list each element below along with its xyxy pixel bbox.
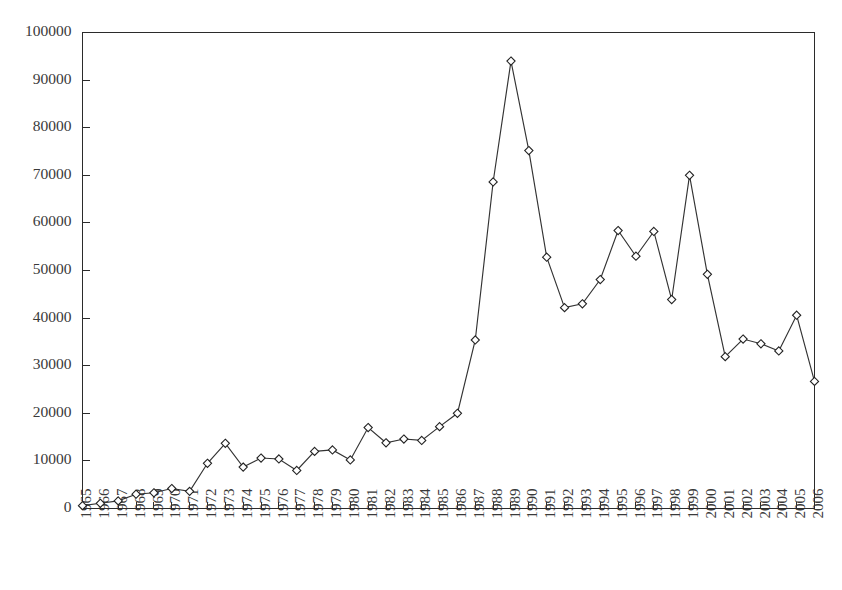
x-tick-label: 1990 xyxy=(524,489,540,519)
x-tick-label: 2003 xyxy=(757,489,773,519)
line-chart-figure: 0100002000030000400005000060000700008000… xyxy=(0,0,842,590)
x-tick-label: 1983 xyxy=(400,489,416,519)
x-tick-label: 2000 xyxy=(703,489,719,519)
x-tick-label: 1974 xyxy=(239,488,255,519)
x-tick-label: 1997 xyxy=(649,488,665,519)
x-tick-label: 2006 xyxy=(810,488,826,519)
x-tick-label: 1982 xyxy=(382,489,398,519)
x-tick-label: 1987 xyxy=(471,488,487,519)
y-tick-label: 20000 xyxy=(33,403,72,420)
y-tick-label: 50000 xyxy=(33,260,72,277)
chart-canvas: 0100002000030000400005000060000700008000… xyxy=(0,0,842,590)
x-tick-label: 1976 xyxy=(275,488,291,519)
x-tick-label: 1979 xyxy=(328,489,344,519)
x-tick-label: 1993 xyxy=(578,489,594,519)
y-tick-label: 70000 xyxy=(33,165,72,182)
x-tick-label: 1984 xyxy=(417,488,433,519)
y-tick-label: 90000 xyxy=(33,70,72,87)
x-tick-label: 1981 xyxy=(364,489,380,519)
y-tick-label: 10000 xyxy=(33,450,72,467)
y-tick-label: 80000 xyxy=(33,117,72,134)
y-tick-label: 60000 xyxy=(33,212,72,229)
x-tick-label: 1973 xyxy=(221,489,237,519)
y-tick-label: 0 xyxy=(64,498,72,515)
x-tick-label: 1989 xyxy=(507,489,523,519)
x-tick-label: 1980 xyxy=(346,489,362,519)
x-tick-label: 2004 xyxy=(774,488,790,519)
y-tick-label: 30000 xyxy=(33,355,72,372)
x-tick-label: 1970 xyxy=(167,489,183,519)
x-tick-label: 1978 xyxy=(310,489,326,519)
x-tick-label: 2005 xyxy=(792,489,808,519)
x-tick-label: 1991 xyxy=(542,489,558,519)
x-tick-label: 1977 xyxy=(292,488,308,519)
x-tick-label: 1998 xyxy=(667,489,683,519)
x-tick-label: 1992 xyxy=(560,489,576,519)
y-tick-label: 100000 xyxy=(25,22,72,39)
x-tick-label: 1995 xyxy=(614,489,630,519)
x-tick-label: 1999 xyxy=(685,489,701,519)
y-tick-label: 40000 xyxy=(33,308,72,325)
x-tick-label: 1988 xyxy=(489,489,505,519)
x-tick-label: 1996 xyxy=(632,488,648,519)
x-tick-label: 2001 xyxy=(721,489,737,519)
x-tick-label: 1985 xyxy=(435,489,451,519)
x-tick-label: 1975 xyxy=(257,489,273,519)
x-tick-label: 1972 xyxy=(203,489,219,519)
x-tick-label: 2002 xyxy=(739,489,755,519)
x-tick-label: 1986 xyxy=(453,488,469,519)
x-tick-label: 1994 xyxy=(596,488,612,519)
